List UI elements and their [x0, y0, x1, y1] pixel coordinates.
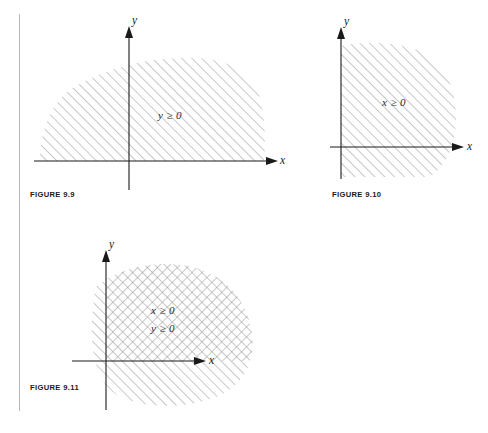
figure-page: x y y ≥ 0 FIGURE 9.9 — [0, 0, 488, 433]
figure-9-9: x y y ≥ 0 FIGURE 9.9 — [28, 14, 296, 194]
figure-9-11-x-axis-label: x — [209, 354, 214, 366]
figure-9-10-plot — [330, 14, 488, 194]
left-margin-rule — [19, 14, 20, 411]
figure-9-11-region-label-0: x ≥ 0 — [151, 304, 175, 316]
figure-9-11: x y x ≥ 0 y ≥ 0 FIGURE 9.11 — [28, 228, 296, 413]
figure-9-9-caption: FIGURE 9.9 — [30, 190, 75, 199]
figure-9-9-region-label-0: y ≥ 0 — [158, 109, 182, 121]
figure-9-11-caption: FIGURE 9.11 — [30, 383, 79, 392]
figure-9-10-region-label-0: x ≥ 0 — [382, 96, 406, 108]
figure-9-10: x y x ≥ 0 FIGURE 9.10 — [330, 14, 488, 194]
shaded-region-x-ge-0 — [330, 14, 488, 194]
figure-9-10-caption: FIGURE 9.10 — [332, 190, 381, 199]
figure-9-10-x-axis-label: x — [467, 140, 472, 152]
figure-9-9-plot — [28, 14, 296, 194]
shaded-region-y-ge-0 — [28, 14, 296, 194]
figure-9-10-y-axis-label: y — [344, 15, 349, 27]
figure-9-11-y-axis-label: y — [109, 238, 114, 250]
figure-9-9-y-axis-label: y — [132, 14, 137, 26]
figure-9-9-x-axis-label: x — [280, 154, 285, 166]
figure-9-11-region-label-1: y ≥ 0 — [151, 322, 175, 334]
